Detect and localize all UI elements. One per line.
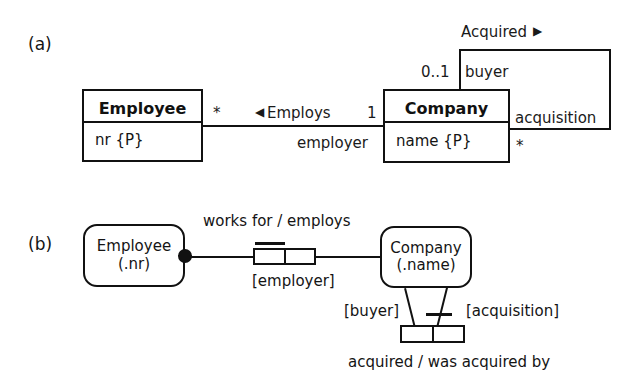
orm-works-for-right-connector [315, 256, 381, 258]
orm-rolename-buyer: [buyer] [344, 302, 399, 320]
part-a-label: (a) [28, 36, 52, 53]
uml-class-company-divider [385, 121, 508, 123]
uml-class-employee-attribute: nr {P} [95, 131, 144, 149]
uml-rolename-buyer: buyer [465, 63, 508, 81]
orm-works-for-left-connector [190, 256, 254, 258]
uml-class-company-attribute: name {P} [396, 132, 471, 150]
orm-entity-employee[interactable]: Employee (.nr) [83, 224, 185, 287]
orm-acquired-right-leg [436, 288, 448, 327]
orm-predicate-reading-works-for: works for / employs [203, 212, 351, 230]
uml-multiplicity-acquisition-star: * [516, 137, 524, 155]
uml-rolename-acquisition: acquisition [515, 109, 596, 127]
uml-multiplicity-company-one: 1 [367, 104, 377, 122]
uml-association-employs-name: Employs [267, 104, 331, 122]
orm-role-acquired-2[interactable] [432, 327, 464, 341]
orm-predicate-acquired[interactable] [400, 325, 465, 343]
orm-entity-company-name: Company [390, 240, 461, 257]
orm-acquired-left-leg [404, 288, 415, 326]
orm-role-acquired-1[interactable] [402, 327, 432, 341]
uml-rolename-employer: employer [297, 134, 368, 152]
uml-class-company[interactable]: Company name {P} [383, 89, 510, 163]
diagram-canvas: (a) Employee nr {P} Company name {P} * 1… [0, 0, 638, 385]
orm-rolename-employer: [employer] [252, 272, 335, 290]
orm-uniqueness-constraint-works-for [255, 242, 285, 245]
uml-class-company-name: Company [385, 99, 508, 118]
part-b-label: (b) [28, 236, 52, 253]
uml-association-acquired-left-leg [459, 49, 461, 90]
uml-class-employee-name: Employee [84, 99, 201, 118]
orm-uniqueness-constraint-acquired [426, 313, 452, 316]
uml-association-employs-arrow: ◀ [255, 105, 264, 119]
uml-multiplicity-employee-star: * [213, 104, 221, 122]
uml-class-employee-divider [84, 121, 201, 123]
orm-role-works-for-1[interactable] [255, 250, 284, 263]
uml-association-acquired-bottom [509, 128, 611, 130]
orm-predicate-reading-acquired: acquired / was acquired by [348, 353, 550, 371]
orm-entity-company-refmode: (.name) [396, 257, 455, 274]
uml-class-employee[interactable]: Employee nr {P} [82, 89, 203, 162]
orm-predicate-works-for[interactable] [253, 248, 316, 265]
uml-association-acquired-name: Acquired [461, 23, 527, 41]
uml-association-acquired-arrow: ▶ [533, 24, 542, 38]
orm-entity-employee-refmode: (.nr) [118, 256, 150, 273]
orm-role-works-for-2[interactable] [284, 250, 315, 263]
orm-entity-employee-name: Employee [97, 238, 171, 255]
uml-association-employs-line [203, 125, 383, 127]
orm-entity-company[interactable]: Company (.name) [380, 226, 472, 288]
orm-rolename-acquisition: [acquisition] [466, 302, 559, 320]
uml-multiplicity-buyer: 0..1 [421, 63, 450, 81]
uml-association-acquired-top [459, 49, 611, 51]
uml-association-acquired-right-leg [609, 49, 611, 129]
